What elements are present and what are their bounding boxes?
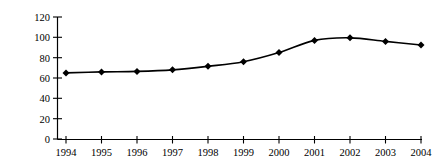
line-chart: % 0 20 40 60 80 100 120 <box>0 0 438 166</box>
y-tick-label: 80 <box>40 53 51 64</box>
x-tick-label: 1997 <box>162 147 183 158</box>
y-tick-label: 20 <box>40 114 51 125</box>
x-tick-label: 1995 <box>91 147 112 158</box>
y-tick-label: 100 <box>34 32 50 43</box>
y-tick-label: 40 <box>40 93 51 104</box>
y-tick-label: 60 <box>40 73 51 84</box>
chart-canvas: 0 20 40 60 80 100 120 <box>0 0 438 166</box>
x-tick-label: 1994 <box>56 147 78 158</box>
x-tick-label: 1999 <box>233 147 254 158</box>
x-tick-label: 2002 <box>340 147 361 158</box>
x-tick-label: 2003 <box>375 147 396 158</box>
x-tick-label: 2000 <box>269 147 290 158</box>
y-tick-label: 0 <box>45 134 50 145</box>
y-tick-label: 120 <box>34 12 50 23</box>
x-tick-label: 2004 <box>411 147 433 158</box>
x-tick-label: 2001 <box>304 147 325 158</box>
x-tick-label: 1996 <box>127 147 148 158</box>
x-tick-label: 1998 <box>198 147 219 158</box>
